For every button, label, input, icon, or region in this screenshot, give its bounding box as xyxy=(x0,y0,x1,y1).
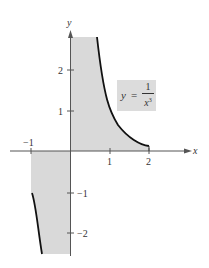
chart-plot: −1 1 2 2 1 −1 −2 x y xyxy=(0,0,209,268)
x-tick-label-1: 1 xyxy=(107,156,112,167)
y-tick-label-1: 1 xyxy=(58,106,63,117)
y-tick-label-2: 2 xyxy=(58,65,63,76)
formula-denominator: x3 xyxy=(142,95,154,108)
formula-equals: = xyxy=(131,89,137,101)
x-tick-label-neg1: −1 xyxy=(23,137,34,148)
formula-numerator: 1 xyxy=(142,81,154,92)
formula-lhs: y xyxy=(121,89,126,101)
y-tick-label-neg2: −2 xyxy=(77,228,88,239)
y-axis-label: y xyxy=(66,17,72,28)
fraction-bar xyxy=(142,93,154,94)
formula-fraction: 1 x3 xyxy=(142,81,154,108)
x-tick-label-2: 2 xyxy=(146,156,151,167)
y-axis-arrow-icon xyxy=(68,30,73,38)
y-tick-label-neg1: −1 xyxy=(77,188,88,199)
shaded-region-left xyxy=(31,151,71,254)
x-axis-arrow-icon xyxy=(184,149,192,154)
x-axis-label: x xyxy=(192,145,198,156)
function-label-box: y = 1 x3 xyxy=(117,80,156,111)
denominator-exponent: 3 xyxy=(149,97,152,103)
